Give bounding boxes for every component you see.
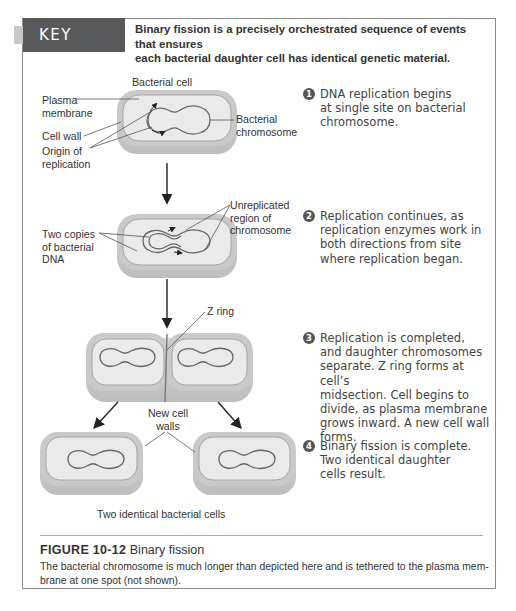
step-number-badge: 1: [303, 88, 315, 100]
step-text-line: Replication is completed,: [320, 331, 493, 345]
step-text-line: midsection. Cell begins to: [320, 388, 493, 402]
label-line: DNA: [42, 253, 95, 266]
step-text-line: grows inward. A new cell wall: [320, 416, 493, 430]
label-line: Origin of: [42, 145, 90, 158]
figure-caption-title: FIGURE 10-12 Binary fission: [40, 543, 204, 557]
label-plasma-membrane: Plasma membrane: [42, 94, 93, 119]
label-line: Bacterial: [236, 113, 297, 126]
step-text-line: chromosome.: [320, 115, 493, 129]
label-line: Plasma: [42, 94, 93, 107]
label-z-ring: Z ring: [207, 305, 234, 318]
caption-divider: [40, 535, 483, 536]
step-3: 3 Replication is completed, and daughter…: [303, 331, 493, 445]
label-line: chromosome: [236, 126, 297, 139]
figure-caption-body: The bacterial chromosome is much longer …: [40, 560, 490, 587]
label-line: chromosome: [230, 224, 291, 237]
label-line: Unreplicated: [230, 199, 291, 212]
daughter-cell-left: [40, 432, 143, 495]
step-text-line: separate. Z ring forms at cell’s: [320, 359, 493, 387]
figure-number: FIGURE 10-12: [40, 543, 126, 557]
step-number-badge: 4: [303, 440, 315, 452]
label-new-cell-walls: New cell walls: [146, 407, 190, 432]
label-line: replication: [42, 158, 90, 171]
label-origin-of-replication: Origin of replication: [42, 145, 90, 170]
stage2-cell: [117, 214, 237, 278]
stage3-dividing-cell: [86, 333, 253, 402]
label-line: of bacterial: [42, 241, 95, 254]
label-line: region of: [230, 212, 291, 225]
step-text-line: at single site on bacterial: [320, 101, 493, 115]
step-number-badge: 3: [303, 332, 315, 344]
caption-line: The bacterial chromosome is much longer …: [40, 560, 490, 574]
step-text-line: Binary fission is complete.: [320, 439, 493, 453]
step-text-line: Replication continues, as: [320, 209, 493, 223]
label-bacterial-cell: Bacterial cell: [132, 76, 192, 89]
label-line: Two copies: [42, 228, 95, 241]
label-two-identical-cells: Two identical bacterial cells: [97, 508, 225, 521]
label-two-copies-dna: Two copies of bacterial DNA: [42, 228, 95, 266]
figure-title: Binary fission: [130, 543, 204, 557]
step-text-line: divide, as plasma membrane: [320, 402, 493, 416]
step-text-line: cells result.: [320, 467, 493, 481]
label-bacterial-chromosome: Bacterial chromosome: [236, 113, 297, 138]
step-text-line: DNA replication begins: [320, 87, 493, 101]
label-cell-wall: Cell wall: [42, 130, 81, 143]
stage1-cell: [117, 90, 237, 154]
step-2: 2 Replication continues, as replication …: [303, 209, 493, 266]
label-line: walls: [146, 420, 190, 433]
step-text-line: replication enzymes work in: [320, 223, 493, 237]
label-unreplicated-region: Unreplicated region of chromosome: [230, 199, 291, 237]
caption-line: brane at one spot (not shown).: [40, 574, 490, 588]
label-line: membrane: [42, 107, 93, 120]
step-4: 4 Binary fission is complete. Two identi…: [303, 439, 493, 482]
step-text-line: where replication began.: [320, 252, 493, 266]
step-text-line: and daughter chromosomes: [320, 345, 493, 359]
step-number-badge: 2: [303, 210, 315, 222]
step-text-line: Two identical daughter: [320, 453, 493, 467]
label-line: New cell: [146, 407, 190, 420]
step-1: 1 DNA replication begins at single site …: [303, 87, 493, 130]
step-text-line: both directions from site: [320, 237, 493, 251]
daughter-cell-right: [193, 432, 296, 495]
